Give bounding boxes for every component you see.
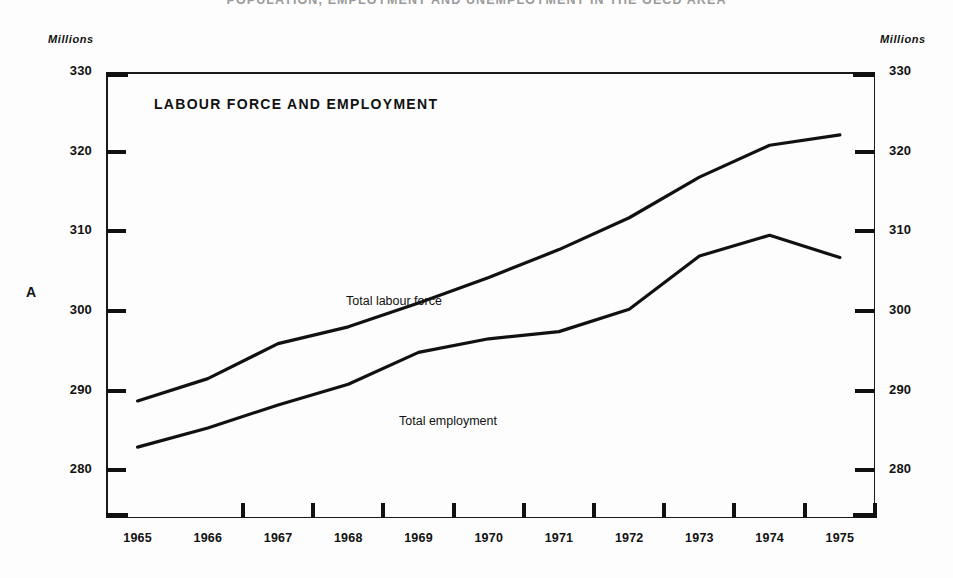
- y-axis-label-right-310: 310: [889, 222, 933, 237]
- plot-area: LABOUR FORCE AND EMPLOYMENT Total labour…: [106, 72, 875, 518]
- x-axis-label-1970: 1970: [462, 531, 516, 545]
- chart-page: POPULATION, EMPLOYMENT AND UNEMPLOYMENT …: [0, 0, 953, 578]
- x-tick-mark-1968: [381, 503, 385, 518]
- x-tick-mark-1966: [241, 503, 245, 518]
- y-tick-mark-left-280: [106, 468, 126, 472]
- y-axis-unit-left: Millions: [48, 33, 94, 45]
- line-total-employment: [138, 235, 840, 447]
- x-axis-label-1967: 1967: [251, 531, 305, 545]
- y-tick-mark-right-300: [855, 309, 875, 313]
- series-lines: [106, 72, 875, 518]
- x-axis-label-1969: 1969: [392, 531, 446, 545]
- y-axis-label-left-290: 290: [48, 382, 92, 397]
- x-tick-mark-1972: [662, 503, 666, 518]
- x-tick-mark-1975: [873, 503, 877, 518]
- x-axis-label-1968: 1968: [321, 531, 375, 545]
- y-axis-label-left-300: 300: [48, 302, 92, 317]
- y-tick-mark-left-310: [106, 229, 126, 233]
- x-tick-mark-1974: [803, 503, 807, 518]
- x-axis-label-1965: 1965: [111, 531, 165, 545]
- y-axis-label-left-330: 330: [48, 63, 92, 78]
- panel-letter: A: [26, 284, 36, 300]
- x-tick-mark-1970: [522, 503, 526, 518]
- x-axis-label-1966: 1966: [181, 531, 235, 545]
- x-tick-mark-1971: [592, 503, 596, 518]
- y-tick-mark-left-300: [106, 309, 126, 313]
- y-axis-label-right-300: 300: [889, 302, 933, 317]
- x-axis-label-1973: 1973: [672, 531, 726, 545]
- y-axis-unit-right: Millions: [880, 33, 926, 45]
- y-axis-label-left-280: 280: [48, 461, 92, 476]
- document-title: POPULATION, EMPLOYMENT AND UNEMPLOYMENT …: [0, 0, 953, 7]
- x-axis-label-1975: 1975: [813, 531, 867, 545]
- x-tick-mark-1967: [311, 503, 315, 518]
- x-axis-label-1974: 1974: [743, 531, 797, 545]
- y-tick-mark-left-320: [106, 150, 126, 154]
- x-tick-mark-1973: [732, 503, 736, 518]
- y-tick-mark-left-290: [106, 389, 126, 393]
- line-total-labour-force: [138, 135, 840, 401]
- y-tick-mark-right-280: [855, 468, 875, 472]
- x-axis-label-1972: 1972: [602, 531, 656, 545]
- x-axis-label-1971: 1971: [532, 531, 586, 545]
- y-tick-mark-right-310: [855, 229, 875, 233]
- y-tick-mark-right-320: [855, 150, 875, 154]
- y-tick-mark-right-290: [855, 389, 875, 393]
- y-axis-label-right-320: 320: [889, 143, 933, 158]
- y-axis-label-left-320: 320: [48, 143, 92, 158]
- x-tick-mark-1969: [452, 503, 456, 518]
- y-axis-label-right-290: 290: [889, 382, 933, 397]
- y-axis-label-left-310: 310: [48, 222, 92, 237]
- y-axis-label-right-330: 330: [889, 63, 933, 78]
- y-axis-label-right-280: 280: [889, 461, 933, 476]
